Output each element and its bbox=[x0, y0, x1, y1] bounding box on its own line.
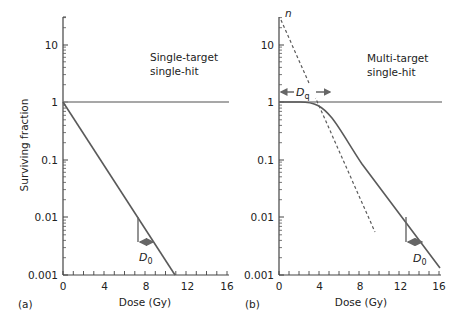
y-tick-label: 0.1 bbox=[41, 154, 58, 166]
title-a-line1: Single-target bbox=[150, 51, 218, 63]
x-axis-label-a: Dose (Gy) bbox=[119, 296, 171, 308]
x-tick-label: 0 bbox=[60, 280, 67, 292]
y-tick-label: 1 bbox=[51, 96, 58, 108]
x-axis-label-b: Dose (Gy) bbox=[335, 296, 387, 308]
y-ticks-b bbox=[279, 18, 284, 275]
extrapolation-line bbox=[281, 20, 375, 232]
survival-curve-b bbox=[279, 102, 440, 268]
d0-label-b: D0 bbox=[413, 252, 427, 267]
title-b-line2: single-hit bbox=[367, 66, 416, 78]
x-tick-label: 16 bbox=[432, 280, 446, 292]
title-b-line1: Multi-target bbox=[367, 52, 428, 64]
panel-a: 10 1 0.1 0.01 0.001 0 4 8 12 16 Survivin… bbox=[18, 17, 234, 310]
x-tick-label: 4 bbox=[316, 280, 323, 292]
x-tick-label: 16 bbox=[220, 280, 234, 292]
y-ticks-a bbox=[63, 18, 68, 275]
x-tick-label: 8 bbox=[143, 280, 150, 292]
x-tick-label: 12 bbox=[181, 280, 194, 292]
y-tick-label: 0.01 bbox=[35, 211, 58, 223]
x-tick-label: 8 bbox=[357, 280, 364, 292]
y-tick-label: 10 bbox=[261, 39, 274, 51]
x-tick-label: 12 bbox=[394, 280, 407, 292]
y-tick-label: 0.001 bbox=[244, 269, 274, 281]
x-tick-label: 0 bbox=[276, 280, 283, 292]
y-tick-label: 0.01 bbox=[251, 211, 274, 223]
n-label: n bbox=[285, 7, 292, 19]
panel-label-a: (a) bbox=[18, 298, 33, 310]
y-axis-label: Surviving fraction bbox=[18, 99, 30, 192]
y-tick-label: 1 bbox=[267, 96, 274, 108]
title-a-line2: single-hit bbox=[150, 65, 199, 77]
d0-label-a: D0 bbox=[139, 251, 153, 266]
y-tick-label: 0.001 bbox=[28, 269, 58, 281]
panel-label-b: (b) bbox=[245, 298, 260, 310]
y-tick-label: 10 bbox=[45, 39, 58, 51]
x-tick-label: 4 bbox=[101, 280, 108, 292]
y-tick-label: 0.1 bbox=[257, 154, 274, 166]
figure: 10 1 0.1 0.01 0.001 0 4 8 12 16 Survivin… bbox=[0, 0, 460, 321]
survival-curve-a bbox=[63, 102, 175, 275]
panel-b: 10 1 0.1 0.01 0.001 0 4 8 12 16 Dose (Gy… bbox=[244, 7, 446, 310]
